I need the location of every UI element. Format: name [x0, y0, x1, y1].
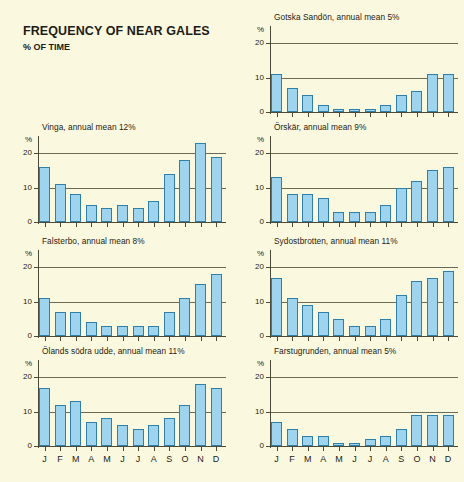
- bar: [333, 443, 344, 446]
- bar: [55, 312, 66, 336]
- bar: [39, 298, 50, 336]
- x-axis-tick: [185, 447, 186, 451]
- x-axis-tick: [91, 337, 92, 341]
- bar: [333, 109, 344, 112]
- y-axis-tick-label: 10: [240, 298, 264, 306]
- chart-title: Gotska Sandön, annual mean 5%: [274, 12, 400, 22]
- x-axis-month-label: A: [316, 454, 330, 464]
- x-axis-tick: [401, 113, 402, 117]
- bar: [164, 174, 175, 222]
- x-axis-tick: [433, 113, 434, 117]
- bar: [101, 418, 112, 446]
- x-axis-month-label: J: [348, 454, 362, 464]
- bar: [287, 88, 298, 112]
- chart-panel: Gotska Sandön, annual mean 5%%01020: [240, 12, 462, 124]
- x-axis-month-label: F: [53, 454, 67, 464]
- x-axis-tick: [386, 113, 387, 117]
- bar: [195, 384, 206, 446]
- bar: [411, 415, 422, 446]
- bar: [70, 401, 81, 446]
- page-title: FREQUENCY OF NEAR GALES: [23, 24, 233, 39]
- x-axis-tick: [433, 447, 434, 451]
- chart-panel: Örskär, annual mean 9%%01020: [240, 122, 462, 234]
- bar: [349, 109, 360, 112]
- gridline: [270, 377, 458, 378]
- chart-page: FREQUENCY OF NEAR GALES % OF TIME Gotska…: [0, 0, 464, 482]
- y-axis-tick-label: 20: [240, 149, 264, 157]
- bar: [39, 167, 50, 222]
- bar: [271, 278, 282, 336]
- x-axis-month-label: J: [270, 454, 284, 464]
- x-axis-tick: [123, 447, 124, 451]
- chart-panel: Ölands södra udde, annual mean 11%%01020…: [8, 346, 230, 476]
- x-axis-tick: [185, 337, 186, 341]
- x-axis-tick: [292, 223, 293, 227]
- bar: [333, 319, 344, 336]
- y-axis-unit-label: %: [25, 136, 32, 144]
- x-axis-tick: [417, 337, 418, 341]
- bar: [133, 429, 144, 446]
- bar: [302, 305, 313, 336]
- bar: [411, 181, 422, 222]
- bar: [443, 271, 454, 336]
- gridline: [38, 377, 226, 378]
- y-axis-tick-label: 20: [240, 373, 264, 381]
- x-axis-month-label: A: [147, 454, 161, 464]
- gridline: [270, 153, 458, 154]
- x-axis-tick: [339, 337, 340, 341]
- bar: [427, 278, 438, 336]
- bar: [211, 157, 222, 222]
- y-axis-tick-label: 10: [8, 408, 32, 416]
- x-axis-month-label: M: [69, 454, 83, 464]
- y-axis-unit-label: %: [25, 250, 32, 258]
- bar: [133, 326, 144, 336]
- gridline: [38, 267, 226, 268]
- y-axis-tick-label: 20: [8, 373, 32, 381]
- x-axis-month-label: F: [285, 454, 299, 464]
- bar: [117, 326, 128, 336]
- x-axis-tick: [448, 113, 449, 117]
- bar: [318, 436, 329, 446]
- x-axis-tick: [401, 337, 402, 341]
- x-axis-month-label: A: [84, 454, 98, 464]
- x-axis-tick: [45, 447, 46, 451]
- x-axis-tick: [339, 447, 340, 451]
- y-axis-tick-label: 0: [8, 218, 32, 226]
- x-axis-tick: [355, 337, 356, 341]
- bar: [195, 284, 206, 336]
- y-axis-tick-label: 0: [240, 332, 264, 340]
- x-axis: [270, 336, 458, 337]
- y-axis-tick-label: 10: [8, 298, 32, 306]
- x-axis-tick: [154, 223, 155, 227]
- y-axis-tick-label: 20: [240, 263, 264, 271]
- x-axis-month-label: N: [426, 454, 440, 464]
- x-axis-tick: [76, 337, 77, 341]
- bar: [396, 295, 407, 336]
- gridline: [270, 267, 458, 268]
- bar: [302, 194, 313, 222]
- x-axis-tick: [45, 223, 46, 227]
- x-axis-month-label: M: [100, 454, 114, 464]
- x-axis-tick: [433, 337, 434, 341]
- x-axis-month-label: N: [194, 454, 208, 464]
- x-axis-tick: [339, 223, 340, 227]
- bar: [86, 205, 97, 222]
- bar: [411, 281, 422, 336]
- x-axis-tick: [123, 223, 124, 227]
- x-axis-tick: [370, 337, 371, 341]
- x-axis: [38, 336, 226, 337]
- bar: [380, 205, 391, 222]
- bar: [318, 105, 329, 112]
- bar: [117, 425, 128, 446]
- x-axis-tick: [138, 223, 139, 227]
- bar: [86, 322, 97, 336]
- x-axis-tick: [107, 447, 108, 451]
- bar: [365, 212, 376, 222]
- x-axis-tick: [323, 447, 324, 451]
- bar: [349, 326, 360, 336]
- x-axis-tick: [91, 447, 92, 451]
- bar: [365, 109, 376, 112]
- y-axis-tick-label: 20: [8, 263, 32, 271]
- bar: [271, 177, 282, 222]
- x-axis-tick: [169, 337, 170, 341]
